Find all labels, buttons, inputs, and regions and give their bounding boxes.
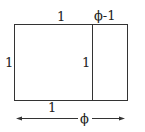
label-total-width-phi: ϕ	[80, 112, 89, 125]
outer-rectangle	[15, 25, 128, 101]
label-divider: 1	[82, 56, 90, 69]
golden-rectangle-diagram	[0, 0, 145, 132]
arrow-right-head-icon	[119, 117, 125, 121]
label-top-square-side: 1	[57, 10, 65, 23]
arrow-left-head-icon	[16, 117, 22, 121]
label-bottom: 1	[48, 101, 56, 114]
label-phi-minus-one: ϕ-1	[94, 9, 116, 22]
label-left-side: 1	[5, 56, 13, 69]
